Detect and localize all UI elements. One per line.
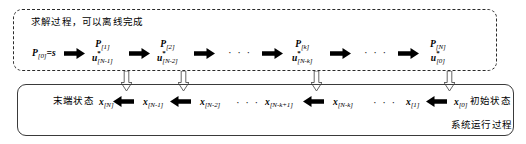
term-pk-u: P[k] u[N-k] [292,39,312,65]
term-xN-k-plus-1: x[N-k+1] [265,97,293,110]
subscript-x: [1] [411,101,420,109]
subscript-x: [N-2] [205,101,220,109]
term-xN-k: x[N-k] [333,97,353,110]
subscript-p: [k] [301,43,309,51]
term-x1: x[1] [406,97,419,110]
run-ellipsis-1: · · · [236,97,260,107]
run-ellipsis-2: · · · [373,97,397,107]
solve-process-caption: 求解过程，可以离线完成 [31,16,143,27]
initial-state-label: 初始状态 [470,95,511,106]
subscript-p: [2] [166,43,175,51]
term-p0: P[0]=s [32,48,56,61]
solve-ellipsis-1: · · · [228,47,252,57]
process-diagram: 求解过程，可以离线完成 P[0]=s P[1] u[N-1] P[2] u[N-… [0,0,526,144]
term-x0: x[0] [454,97,467,110]
solve-arrow-4 [262,48,283,59]
term-pN-u: P[N] u[0] [430,39,446,65]
term-u2: u[N-2] [157,53,178,66]
symbol-u: u [431,53,436,63]
run-arrow-1 [113,96,134,107]
solve-arrow-1 [64,48,85,59]
equals-s: =s [46,48,55,58]
solve-arrow-3 [194,48,215,59]
subscript-x: [N-1] [148,101,163,109]
run-arrow-3 [303,96,324,107]
subscript-x: [0] [459,101,468,109]
term-xN-1: x[N-1] [143,97,163,110]
term-p1-u: P[1] u[N-1] [92,39,113,65]
system-run-panel [17,84,514,136]
solve-ellipsis-2: · · · [364,47,388,57]
run-arrow-4 [426,96,447,107]
term-xN-2: x[N-2] [200,97,220,110]
solve-arrow-2 [129,48,150,59]
system-run-caption: 系统运行过程 [451,119,512,130]
term-p2-u: P[2] u[N-2] [157,39,178,65]
term-uk: u[N-k] [292,53,312,66]
term-xN: x[N] [99,97,114,110]
subscript-p: [1] [101,43,110,51]
symbol-u: u [292,53,297,63]
subscript-x: [N-k+1] [270,101,293,109]
term-u1: u[N-1] [92,53,113,66]
term-uN: u[0] [431,53,445,66]
solve-arrow-5 [330,48,351,59]
symbol-u: u [92,53,97,63]
run-arrow-2 [170,96,191,107]
subscript-x: [N-k] [338,101,353,109]
terminal-state-label: 末端状态 [53,95,94,106]
solve-arrow-6 [398,48,419,59]
symbol-u: u [157,53,162,63]
